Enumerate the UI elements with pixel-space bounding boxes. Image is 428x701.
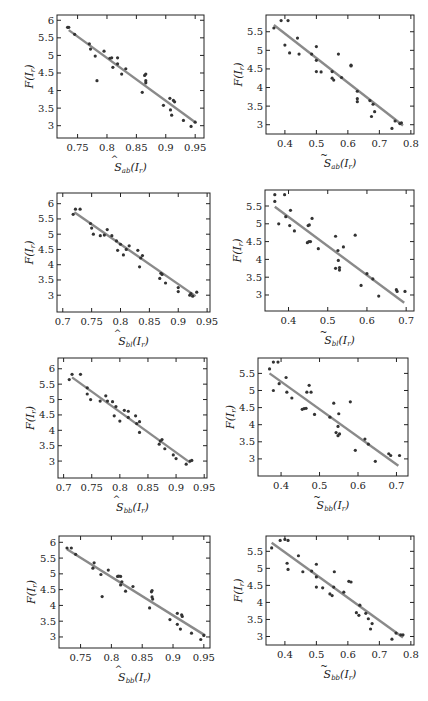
data-point	[338, 268, 341, 271]
tilde-accent: ~	[320, 327, 328, 337]
chart-panel-row1-right: 0.40.50.60.70.833.544.555.5F(Ir)Sab(Ir)~	[232, 15, 419, 171]
x-tick-label: 0.7	[389, 480, 405, 491]
chart-panel-row1-left: 0.750.80.850.90.9533.544.555.56F(Ir)Sab(…	[23, 15, 206, 175]
y-tick-label: 5.5	[247, 546, 263, 557]
y-tick-label: 4.5	[247, 580, 263, 591]
x-axis-label: Sbb(Ir)	[118, 671, 151, 685]
data-point	[168, 618, 171, 621]
y-axis-label: F(Ir)	[232, 63, 246, 88]
data-point	[398, 454, 401, 457]
data-point	[371, 277, 374, 280]
data-point	[174, 457, 177, 460]
data-point	[144, 72, 147, 75]
data-point	[297, 52, 300, 55]
y-tick-label: 4	[256, 254, 262, 265]
data-point	[358, 604, 361, 607]
x-axis-label: Sbb(Ir)	[324, 668, 357, 682]
data-point	[148, 606, 151, 609]
y-tick-label: 4.5	[38, 244, 54, 255]
plot-frame	[258, 358, 408, 476]
x-tick-label: 0.95	[193, 652, 215, 663]
x-tick-label: 0.6	[340, 138, 356, 149]
data-point	[127, 410, 130, 413]
data-point	[195, 291, 198, 294]
x-tick-label: 0.85	[138, 316, 160, 327]
data-point	[182, 119, 185, 122]
data-point	[106, 399, 109, 402]
regression-line	[69, 30, 195, 122]
data-point	[272, 389, 275, 392]
data-point	[273, 200, 276, 203]
data-point	[368, 99, 371, 102]
data-point	[199, 638, 202, 641]
data-point	[169, 108, 172, 111]
data-point	[176, 612, 179, 615]
x-tick-label: 0.95	[184, 142, 206, 153]
data-point	[309, 391, 312, 394]
data-point	[356, 100, 359, 103]
data-point	[79, 373, 82, 376]
data-point	[125, 248, 128, 251]
regression-line	[274, 25, 403, 125]
data-point	[332, 585, 335, 588]
data-point	[170, 114, 173, 117]
data-point	[189, 125, 192, 128]
data-point	[160, 438, 163, 441]
data-point	[70, 546, 73, 549]
hat-accent: ^	[111, 154, 119, 164]
x-tick-label: 0.95	[193, 482, 215, 493]
data-point	[191, 295, 194, 298]
tilde-accent: ~	[320, 661, 328, 671]
x-tick-label: 0.75	[81, 316, 103, 327]
y-tick-label: 4.5	[246, 236, 262, 247]
y-axis-label: F(Ir)	[224, 405, 238, 430]
x-tick-label: 0.8	[112, 482, 128, 493]
data-point	[158, 277, 161, 280]
data-point	[172, 453, 175, 456]
tilde-accent: ~	[313, 492, 321, 502]
data-point	[315, 575, 318, 578]
y-tick-label: 6	[50, 537, 56, 548]
x-tick-label: 0.75	[81, 482, 103, 493]
x-tick-label: 0.4	[273, 480, 289, 491]
data-point	[88, 42, 91, 45]
data-point	[150, 589, 153, 592]
data-point	[349, 64, 352, 67]
data-point	[283, 538, 286, 541]
data-point	[359, 284, 362, 287]
data-point	[400, 121, 403, 124]
x-axis-label: Sbb(Ir)	[116, 501, 149, 515]
data-point	[101, 595, 104, 598]
x-tick-label: 0.8	[103, 652, 119, 663]
data-point	[284, 376, 287, 379]
x-axis-label: Sbl(Ir)	[324, 334, 355, 348]
y-tick-label: 3	[48, 290, 54, 301]
data-point	[285, 391, 288, 394]
y-tick-label: 6	[49, 363, 55, 374]
data-point	[396, 290, 399, 293]
data-point	[356, 97, 359, 100]
data-point	[190, 459, 193, 462]
data-point	[90, 226, 93, 229]
data-point	[334, 431, 337, 434]
data-point	[357, 614, 360, 617]
data-point	[113, 414, 116, 417]
data-point	[120, 580, 123, 583]
data-point	[268, 367, 271, 370]
data-point	[116, 56, 119, 59]
data-point	[286, 19, 289, 22]
data-point	[116, 62, 119, 65]
data-point	[99, 573, 102, 576]
data-point	[284, 215, 287, 218]
data-point	[111, 400, 114, 403]
y-tick-label: 5	[257, 563, 263, 574]
y-axis-label: F(Ir)	[231, 239, 245, 264]
x-tick-label: 0.8	[403, 138, 419, 149]
y-tick-label: 3.5	[247, 614, 263, 625]
x-tick-label: 0.7	[371, 138, 387, 149]
data-point	[290, 396, 293, 399]
data-point	[308, 223, 311, 226]
data-point	[334, 235, 337, 238]
chart-panel-row2-left: 0.70.750.80.850.90.9533.544.555.56F(Ir)S…	[23, 193, 218, 349]
data-point	[331, 594, 334, 597]
